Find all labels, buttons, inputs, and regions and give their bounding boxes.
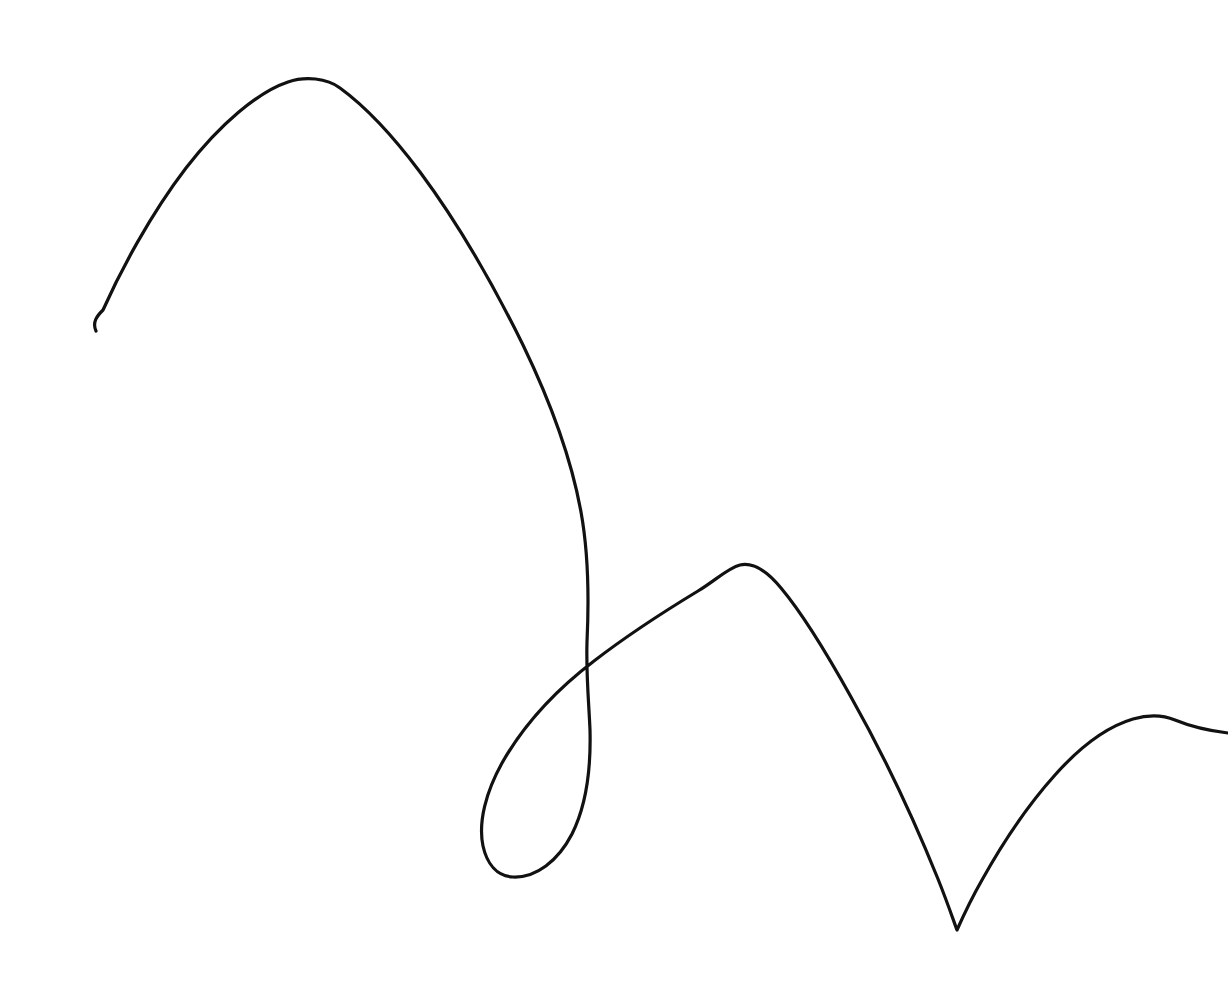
sketch-svg — [0, 0, 1228, 1000]
canvas-background — [0, 0, 1228, 1000]
drawing-canvas — [0, 0, 1228, 1000]
